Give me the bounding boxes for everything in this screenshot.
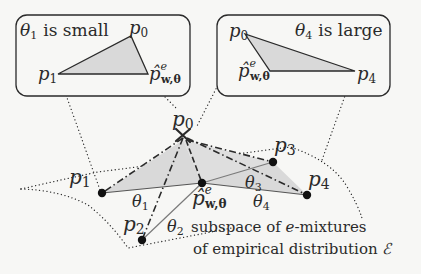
subspace-caption-line2: of empirical distribution ℰ bbox=[193, 240, 393, 258]
point-p2 bbox=[138, 236, 146, 244]
subspace-caption-line1: subspace of e-mixtures bbox=[191, 218, 366, 236]
label-p0: p0 bbox=[172, 107, 194, 132]
label-p2: p2 bbox=[123, 212, 145, 237]
label-theta4: θ4 bbox=[253, 192, 270, 213]
label-p4: p4 bbox=[308, 167, 330, 192]
diagram-canvas: p0 p1 p2 p3 p4 p̂ew,θ θ1 θ2 θ3 θ4 subspa… bbox=[0, 0, 421, 274]
point-p3 bbox=[269, 158, 277, 166]
inset-theta4-large: θ4is large p0 p̂ew,θ p4 bbox=[217, 15, 390, 96]
label-theta2: θ2 bbox=[167, 217, 184, 238]
label-phat: p̂ew,θ bbox=[192, 183, 226, 211]
inset-theta1-small: θ1is small p0 p1 p̂ew,θ bbox=[16, 15, 190, 96]
point-p4 bbox=[303, 191, 311, 199]
label-p1: p1 bbox=[69, 165, 91, 190]
label-theta1: θ1 bbox=[132, 192, 149, 213]
point-p1 bbox=[98, 189, 106, 197]
label-p3: p3 bbox=[274, 133, 296, 158]
